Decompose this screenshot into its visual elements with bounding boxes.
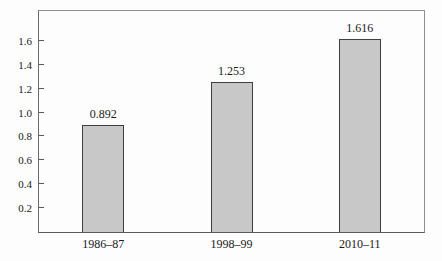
y-axis-tick [39, 135, 44, 136]
y-axis-tick-label: 0.8 [18, 131, 32, 142]
y-axis-tick-label: 0.6 [18, 155, 32, 166]
y-axis-tick-label: 1.6 [18, 35, 32, 46]
y-axis-tick-label: 0.4 [18, 179, 32, 190]
y-axis-tick [39, 40, 44, 41]
y-axis-tick-label: 1.2 [18, 83, 32, 94]
y-axis-tick [39, 207, 44, 208]
y-axis-tick [39, 112, 44, 113]
y-axis-tick [39, 64, 44, 65]
x-axis-category-label: 1986–87 [82, 238, 124, 250]
bar-2010-11 [339, 39, 381, 232]
bar-1998-99 [211, 82, 253, 232]
bar-value-label: 1.253 [218, 65, 245, 77]
plot-area: 0.20.40.60.81.01.21.41.60.8921986–871.25… [38, 10, 425, 233]
bar-chart: 0.20.40.60.81.01.21.41.60.8921986–871.25… [0, 0, 442, 261]
y-axis-tick [39, 159, 44, 160]
y-axis-tick [39, 183, 44, 184]
bar-value-label: 1.616 [346, 22, 373, 34]
x-axis-category-label: 2010–11 [339, 238, 381, 250]
y-axis-tick-label: 1.4 [18, 59, 32, 70]
y-axis-tick-label: 1.0 [18, 107, 32, 118]
bar-1986-87 [82, 125, 124, 232]
y-axis-tick [39, 88, 44, 89]
x-axis-category-label: 1998–99 [211, 238, 253, 250]
y-axis-tick-label: 0.2 [18, 203, 32, 214]
bar-value-label: 0.892 [90, 108, 117, 120]
